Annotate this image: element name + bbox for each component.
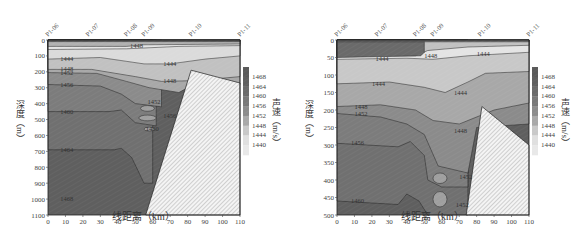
y-tick-label: 150 [324,89,335,97]
station-label: P1-08 [122,22,138,38]
contour-label: 1452 [60,69,73,76]
y-tick-label: 350 [324,159,335,167]
contour-label: 1456 [163,112,177,119]
contour-label: 1444 [60,55,74,62]
station-label: P1-11 [525,22,541,38]
colorbar-tick-label: 1468 [252,73,267,81]
x-tick-label: 10 [351,218,359,226]
colorbar [532,67,538,155]
contour-label: 1460 [146,125,159,132]
x-tick-label: 100 [506,218,517,226]
right-y-axis-label: 深度（m） [303,100,316,143]
contour-label: 1444 [163,60,177,67]
contour-label: 1448 [424,52,437,59]
left-y-axis-label: 深度（m） [14,100,27,143]
y-tick-label: 1100 [31,212,45,220]
y-tick-label: 200 [35,68,46,76]
contour-label: 1444 [477,50,491,57]
y-tick-label: 300 [35,84,46,92]
station-label: P1-09 [140,22,156,38]
colorbar-tick-label: 1448 [252,122,267,130]
y-tick-label: 400 [324,177,335,185]
y-tick-label: 300 [324,142,335,150]
y-tick-label: 400 [35,100,46,108]
contour-label: 1448 [130,42,143,49]
x-tick-label: 10 [62,218,70,226]
contour-label: 1448 [163,77,176,84]
contour-label: 1452 [354,110,367,117]
colorbar-tick-label: 1440 [252,141,267,149]
x-tick-label: 110 [235,218,246,226]
contour-label: 1452 [459,173,472,180]
contour-label: 1444 [372,80,386,87]
x-tick-label: 100 [217,218,228,226]
station-label: P1-10 [187,22,203,38]
x-tick-label: 20 [79,218,87,226]
colorbar-tick-label: 1448 [541,122,556,130]
contour-label: 1460 [60,108,73,115]
y-tick-label: 100 [324,72,335,80]
y-tick-label: 50 [327,54,335,62]
contour-label: 1444 [454,89,468,96]
contour-label: 1444 [375,55,389,62]
colorbar-tick-label: 1464 [252,83,267,91]
right-contour-chart: 1444144814441444144414481452144814561452… [289,0,577,234]
x-tick-label: 90 [491,218,499,226]
x-tick-label: 30 [386,218,394,226]
colorbar-tick-label: 1456 [252,102,267,110]
y-tick-label: 250 [324,124,335,132]
y-tick-label: 200 [324,107,335,115]
left-x-axis-label: 线距离（km） [112,208,175,223]
colorbar-tick-label: 1452 [252,112,267,120]
x-tick-label: 0 [335,218,339,226]
x-tick-label: 90 [202,218,210,226]
left-colorbar-label: 声速（m/s） [270,98,283,147]
x-tick-label: 0 [46,218,50,226]
station-label: P1-11 [236,22,252,38]
y-tick-label: 0 [331,37,335,45]
colorbar-tick-label: 1464 [541,83,556,91]
contour-label: 1452 [147,98,160,105]
contour-label: 1464 [60,146,74,153]
colorbar-tick-label: 1444 [252,131,267,139]
y-tick-label: 900 [35,180,46,188]
contour-label: 1468 [60,195,73,202]
y-tick-label: 800 [35,164,46,172]
y-tick-label: 0 [42,37,46,45]
colorbar [243,67,249,155]
colorbar-tick-label: 1444 [541,131,556,139]
right-x-axis-label: 线距离（km） [401,208,464,223]
left-chart-panel: 1448144414441448145214481456145214601456… [0,0,288,234]
contour-label: 1448 [354,103,367,110]
colorbar-tick-label: 1460 [252,92,267,100]
contour-label: 1456 [60,81,74,88]
x-tick-label: 80 [473,218,481,226]
y-tick-label: 500 [324,212,335,220]
colorbar-tick-label: 1452 [541,112,556,120]
x-tick-label: 80 [184,218,192,226]
contour-label: 1448 [454,127,467,134]
station-label: P1-10 [476,22,492,38]
x-tick-label: 20 [368,218,376,226]
station-label: P1-09 [429,22,445,38]
y-tick-label: 700 [35,148,46,156]
x-tick-label: 110 [524,218,535,226]
y-tick-label: 500 [35,116,46,124]
y-tick-label: 100 [35,52,46,60]
right-chart-panel: 1444144814441444144414481452144814561452… [289,0,577,234]
colorbar-tick-label: 1460 [541,92,556,100]
station-label: P1-07 [84,21,100,37]
y-tick-label: 600 [35,132,46,140]
station-label: P1-07 [373,21,389,37]
station-label: P1-06 [44,21,60,37]
left-contour-chart: 1448144414441448145214481456145214601456… [0,0,288,234]
colorbar-tick-label: 1440 [541,141,556,149]
station-label: P1-08 [411,22,427,38]
colorbar-tick-label: 1468 [541,73,556,81]
contour-label: 1460 [351,197,364,204]
station-label: P1-06 [333,21,349,37]
contour-label: 1452 [456,201,469,208]
right-colorbar-label: 声速（m/s） [559,98,572,147]
colorbar-tick-label: 1456 [541,102,556,110]
y-tick-label: 1000 [31,196,46,204]
